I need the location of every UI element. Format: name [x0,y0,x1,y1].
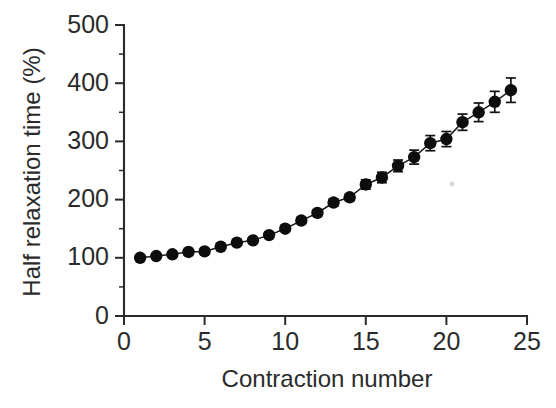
data-point-marker [311,207,323,219]
data-point-marker [198,245,210,257]
x-tick-labels: 0510152025 [117,327,541,355]
data-point-marker [472,106,484,118]
data-point-marker [456,116,468,128]
figure-container: 0100200300400500 0510152025 Contraction … [0,0,556,408]
data-point-marker [263,229,275,241]
x-tick-label: 5 [198,327,212,355]
data-point-marker [424,137,436,149]
data-point-marker [489,96,501,108]
data-point-marker [343,191,355,203]
data-point-marker [295,214,307,226]
x-tick-label: 0 [117,327,131,355]
data-point-marker [150,250,162,262]
data-point-marker [182,246,194,258]
data-point-marker [215,241,227,253]
x-axis [124,316,527,325]
data-line [140,90,511,258]
y-tick-labels: 0100200300400500 [67,10,109,329]
y-tick-label: 400 [67,68,109,96]
x-axis-title: Contraction number [222,365,433,392]
data-point-marker [279,223,291,235]
y-axis-title: Half relaxation time (%) [18,47,45,296]
y-tick-label: 100 [67,242,109,270]
data-point-marker [376,171,388,183]
half-relaxation-time-line-chart: 0100200300400500 0510152025 Contraction … [0,0,556,408]
y-tick-label: 500 [67,10,109,38]
data-point-marker [134,252,146,264]
data-point-marker [505,84,517,96]
scan-artifact-speck [450,182,455,187]
x-tick-label: 10 [271,327,299,355]
data-point-marker [392,160,404,172]
data-point-marker [327,196,339,208]
y-tick-label: 0 [95,301,109,329]
data-point-markers [134,84,517,264]
error-bars [135,78,516,259]
x-tick-label: 25 [513,327,541,355]
data-point-marker [247,234,259,246]
x-tick-label: 20 [432,327,460,355]
y-tick-label: 200 [67,184,109,212]
data-point-marker [231,236,243,248]
y-tick-label: 300 [67,126,109,154]
y-axis [115,25,124,316]
data-point-marker [408,151,420,163]
data-point-marker [166,248,178,260]
x-tick-label: 15 [352,327,380,355]
data-point-marker [360,178,372,190]
data-point-marker [440,133,452,145]
